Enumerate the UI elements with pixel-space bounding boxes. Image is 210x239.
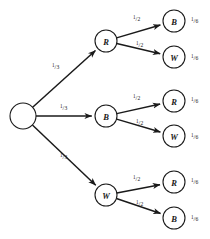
node-leaf-r-2: R (163, 90, 185, 112)
node-leaf-b-1-label: B (170, 17, 177, 27)
edge-label-root-0: 1/3 (52, 62, 59, 70)
node-leaf-w-2: W (163, 125, 185, 147)
node-leaf-b-1: B (163, 10, 185, 32)
nodes-group: RBWBWRWRB (10, 10, 185, 229)
outcome-probability-2: 1/6 (191, 96, 198, 104)
root-node (10, 103, 36, 129)
node-level1-b-label: B (102, 112, 109, 122)
edge-label-level2-4: 1/2 (133, 174, 140, 182)
node-leaf-r-3: R (163, 171, 185, 193)
outcome-probability-1: 1/6 (191, 53, 198, 61)
edge-label-level2-1: 1/2 (136, 40, 143, 48)
root-node-circle (10, 103, 36, 129)
node-leaf-b-3-label: B (170, 214, 177, 224)
edge-w-to-r-4 (117, 185, 160, 193)
outcome-probability-4: 1/6 (191, 177, 198, 185)
node-leaf-b-3: B (163, 207, 185, 229)
edge-b-to-r-2 (117, 104, 160, 114)
edge-label-root-1: 1/3 (60, 103, 67, 111)
node-level1-w: W (95, 184, 117, 206)
outcome-probability-5: 1/6 (191, 214, 198, 222)
node-leaf-w-1: W (163, 46, 185, 68)
node-leaf-r-3-label: R (170, 178, 177, 188)
edge-label-level2-2: 1/2 (133, 93, 140, 101)
edges-level1-group (32, 51, 95, 186)
node-leaf-r-2-label: R (170, 97, 177, 107)
outcome-probability-3: 1/6 (191, 132, 198, 140)
edge-label-root-2: 1/3 (60, 152, 67, 160)
tree-svg: RBWBWRWRB 1/31/31/31/21/61/21/61/21/61/2… (0, 0, 210, 239)
probability-tree-diagram: RBWBWRWRB 1/31/31/31/21/61/21/61/21/61/2… (0, 0, 210, 239)
node-level1-r-label: R (102, 37, 109, 47)
outcome-probability-0: 1/6 (191, 16, 198, 24)
edge-r-to-b-0 (117, 25, 161, 38)
node-level1-r: R (95, 30, 117, 52)
node-level1-b: B (95, 105, 117, 127)
edge-root-to-r-0 (33, 51, 96, 108)
edge-label-level2-0: 1/2 (133, 14, 140, 22)
